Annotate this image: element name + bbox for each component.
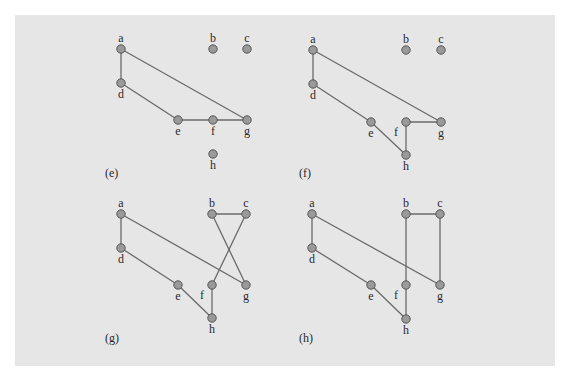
node-d bbox=[117, 244, 125, 252]
node-label-d: d bbox=[310, 88, 316, 102]
node-a bbox=[117, 210, 125, 218]
node-f bbox=[208, 281, 216, 289]
node-a bbox=[309, 46, 317, 54]
node-g bbox=[436, 281, 444, 289]
node-b bbox=[208, 210, 216, 218]
edge-d-e bbox=[121, 248, 178, 285]
node-label-a: a bbox=[309, 196, 315, 210]
node-label-d: d bbox=[118, 252, 124, 266]
node-label-f: f bbox=[200, 288, 204, 302]
node-label-f: f bbox=[211, 124, 215, 138]
node-c bbox=[436, 210, 444, 218]
edge-e-h bbox=[178, 285, 212, 318]
node-h bbox=[402, 315, 410, 323]
node-label-h: h bbox=[210, 158, 216, 172]
node-label-c: c bbox=[437, 196, 442, 210]
node-label-a: a bbox=[310, 32, 316, 46]
node-label-g: g bbox=[437, 289, 443, 303]
node-g bbox=[242, 281, 250, 289]
edge-d-e bbox=[121, 83, 178, 120]
node-g bbox=[437, 118, 445, 126]
node-label-c: c bbox=[438, 32, 443, 46]
node-label-f: f bbox=[394, 288, 398, 302]
node-c bbox=[437, 46, 445, 54]
node-label-e: e bbox=[368, 126, 373, 140]
panel-label-h: (h) bbox=[299, 331, 313, 345]
node-c bbox=[242, 210, 250, 218]
edge-a-g bbox=[121, 214, 246, 285]
node-e bbox=[174, 116, 182, 124]
edge-a-g bbox=[313, 50, 441, 122]
node-d bbox=[308, 244, 316, 252]
graph-panel-h: abcdefgh(h) bbox=[299, 196, 444, 345]
node-g bbox=[243, 116, 251, 124]
panel-label-e: (e) bbox=[105, 166, 118, 180]
figure-stage: abcdefgh(e)abcdefgh(f)abcdefgh(g)abcdefg… bbox=[0, 0, 575, 383]
node-label-e: e bbox=[368, 289, 373, 303]
node-e bbox=[174, 281, 182, 289]
node-b bbox=[402, 210, 410, 218]
node-a bbox=[308, 210, 316, 218]
edge-d-e bbox=[313, 84, 371, 122]
node-label-d: d bbox=[118, 87, 124, 101]
edge-e-h bbox=[371, 122, 406, 155]
node-f bbox=[402, 118, 410, 126]
node-label-b: b bbox=[210, 31, 216, 45]
node-d bbox=[117, 79, 125, 87]
node-label-c: c bbox=[244, 31, 249, 45]
graph-panel-g: abcdefgh(g) bbox=[105, 196, 250, 345]
edge-a-g bbox=[312, 214, 440, 285]
node-label-f: f bbox=[394, 125, 398, 139]
node-f bbox=[402, 281, 410, 289]
node-b bbox=[209, 45, 217, 53]
panel-label-g: (g) bbox=[105, 331, 119, 345]
node-label-d: d bbox=[309, 252, 315, 266]
node-c bbox=[243, 45, 251, 53]
node-label-h: h bbox=[209, 322, 215, 336]
node-f bbox=[209, 116, 217, 124]
node-label-b: b bbox=[209, 196, 215, 210]
node-label-h: h bbox=[403, 159, 409, 173]
node-label-g: g bbox=[438, 126, 444, 140]
node-h bbox=[209, 150, 217, 158]
node-e bbox=[367, 281, 375, 289]
node-label-g: g bbox=[243, 289, 249, 303]
edge-a-g bbox=[121, 49, 247, 120]
edge-d-e bbox=[312, 248, 371, 285]
graph-figure: abcdefgh(e)abcdefgh(f)abcdefgh(g)abcdefg… bbox=[0, 0, 575, 383]
edge-e-h bbox=[371, 285, 406, 319]
panel-label-f: (f) bbox=[299, 166, 311, 180]
node-e bbox=[367, 118, 375, 126]
node-label-b: b bbox=[403, 196, 409, 210]
graph-panel-f: abcdefgh(f) bbox=[299, 32, 445, 180]
node-label-h: h bbox=[403, 323, 409, 337]
node-label-a: a bbox=[118, 31, 124, 45]
node-d bbox=[309, 80, 317, 88]
node-h bbox=[402, 151, 410, 159]
node-b bbox=[402, 46, 410, 54]
node-label-g: g bbox=[244, 124, 250, 138]
node-label-e: e bbox=[175, 124, 180, 138]
node-label-e: e bbox=[175, 289, 180, 303]
node-label-b: b bbox=[403, 32, 409, 46]
graph-panel-e: abcdefgh(e) bbox=[105, 31, 251, 180]
node-label-c: c bbox=[243, 196, 248, 210]
node-a bbox=[117, 45, 125, 53]
node-label-a: a bbox=[118, 196, 124, 210]
node-h bbox=[208, 314, 216, 322]
